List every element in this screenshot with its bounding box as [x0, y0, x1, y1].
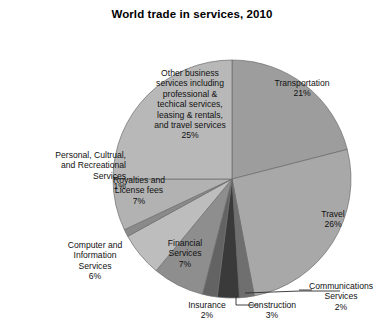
slice-label-royalties-license-fees: Royalties and License fees 7% [100, 175, 178, 206]
slice-label-insurance: Insurance 2% [176, 300, 238, 321]
slice-label-line: Construction [248, 300, 296, 310]
slice-label-communications-services: Communications Services 2% [298, 281, 384, 312]
slice-label-line: Travel [321, 209, 345, 219]
slice-label-percent: 7% [100, 196, 178, 206]
slice-label-percent: 7% [152, 259, 218, 269]
pie-chart: World trade in services, 2010 Other busi… [0, 0, 384, 335]
slice-label-percent: 2% [298, 302, 384, 312]
slice-label-financial-services: Financial Services 7% [152, 238, 218, 269]
slice-label-line: Royalties and [113, 175, 165, 185]
slice-label-line: Communications [309, 281, 373, 291]
slice-label-computer-information-services: Computer and Information Services 6% [46, 240, 144, 282]
slice-label-percent: 6% [46, 271, 144, 281]
slice-label-percent: 2% [176, 310, 238, 320]
slice-label-line: Services [325, 291, 358, 301]
slice-label-transportation: Transportation 21% [252, 78, 352, 99]
slice-label-line: Computer and [68, 240, 122, 250]
slice-label-line: Services [169, 248, 202, 258]
slice-label-line: Services [79, 261, 112, 271]
slice-label-line: Transportation [274, 78, 329, 88]
slice-label-line: Information [74, 250, 117, 260]
slice-label-line: and travel services [154, 120, 226, 130]
slice-label-travel: Travel 26% [300, 209, 366, 230]
slice-label-line: Other business [161, 68, 219, 78]
slice-label-percent: 21% [252, 88, 352, 98]
slice-label-line: leasing & rentals, [157, 110, 223, 120]
slice-label-line: services including [156, 78, 224, 88]
slice-label-line: Insurance [188, 300, 226, 310]
slice-label-line: Financial [168, 238, 202, 248]
slice-label-percent: 25% [125, 130, 255, 140]
slice-label-line: and Recreational [61, 160, 126, 170]
slice-label-other-business: Other business services including profes… [125, 68, 255, 141]
slice-label-construction: Construction 3% [234, 300, 310, 321]
slice-label-percent: 3% [234, 310, 310, 320]
slice-label-line: professional & [163, 89, 217, 99]
slice-label-line: License fees [115, 185, 163, 195]
slice-label-percent: 26% [300, 219, 366, 229]
slice-label-line: Personal, Cultrual, [55, 150, 126, 160]
slice-label-line: techical services, [157, 99, 222, 109]
